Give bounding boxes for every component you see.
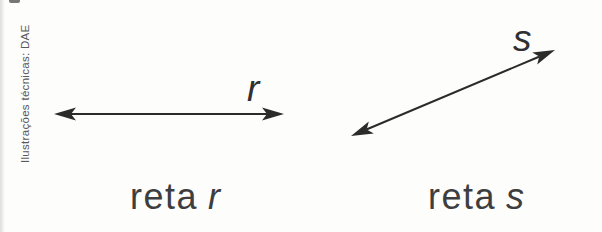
textbook-figure: Ilustrações técnicas: DAE r s retar reta…	[0, 0, 602, 232]
caption-s-variable: s	[506, 176, 526, 217]
caption-reta-r: retar	[130, 179, 222, 215]
caption-r-variable: r	[208, 176, 222, 217]
caption-r-word: reta	[130, 176, 198, 217]
line-s-label: s	[513, 20, 532, 57]
caption-reta-s: retas	[428, 179, 526, 215]
line-s	[351, 50, 555, 136]
line-r	[54, 108, 284, 121]
line-s-body	[368, 57, 539, 129]
caption-s-word: reta	[428, 176, 496, 217]
line-r-label: r	[247, 70, 259, 107]
